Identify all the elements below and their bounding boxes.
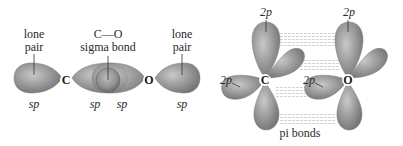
oxygen-2p-left-label: 2p	[303, 74, 315, 87]
carbon-2p-top-label: 2p	[260, 6, 272, 19]
atom-c-right: C	[259, 74, 271, 86]
sigma-bond-label: C—O sigma bond	[80, 28, 136, 54]
atom-o-left: O	[143, 74, 155, 86]
pi-bond-overlap-mid-top	[300, 60, 340, 72]
pi-bonds-label: pi bonds	[279, 127, 320, 140]
lone-pair-right-label: lone pair	[172, 28, 193, 54]
lone-pair-lobe-c	[14, 63, 62, 93]
lone-pair-left-label: lone pair	[24, 28, 45, 54]
sigma-hybrid-o: sp	[117, 98, 128, 111]
lone-pair-right-hybrid: sp	[177, 98, 188, 111]
sigma-hybrid-c: sp	[90, 98, 101, 111]
co-bonding-diagram: lone pair sp C C—O sigma bond sp sp O lo…	[0, 0, 403, 146]
atom-c-left: C	[60, 74, 72, 86]
carbon-2p-left-label: 2p	[220, 74, 232, 87]
lone-pair-left-hybrid: sp	[29, 98, 40, 111]
pi-bond-overlap-bottom	[279, 112, 335, 126]
pi-bond-overlap-top	[279, 32, 335, 46]
lone-pair-right-label-line2: pair	[172, 41, 193, 54]
atom-o-right: O	[342, 74, 354, 86]
oxygen-2p-top-label: 2p	[343, 6, 355, 19]
sigma-bond-text: sigma bond	[80, 41, 136, 54]
lone-pair-left-label-line2: pair	[24, 41, 45, 54]
lone-pair-lobe-o	[155, 63, 200, 93]
